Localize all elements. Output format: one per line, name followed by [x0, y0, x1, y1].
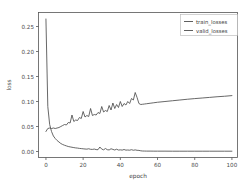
y-tick-label: 0.00 — [22, 149, 35, 155]
data-series-group — [46, 19, 232, 151]
y-tick-label: 0.05 — [22, 124, 35, 130]
legend[interactable]: train_losses valid_losses — [181, 15, 238, 36]
y-tick-label: 0.25 — [22, 24, 35, 30]
y-tick-label: 0.15 — [22, 74, 35, 80]
x-axis-ticks: 020406080100 — [44, 158, 238, 168]
legend-label-valid-losses: valid_losses — [196, 28, 228, 35]
figure-canvas: 020406080100 0.000.050.100.150.200.25 ep… — [0, 0, 250, 193]
loss-curve-chart: 020406080100 0.000.050.100.150.200.25 ep… — [0, 0, 250, 193]
x-tick-label: 0 — [44, 162, 48, 168]
x-tick-label: 40 — [117, 162, 125, 168]
series-line-valid-losses — [46, 93, 232, 132]
x-tick-label: 100 — [227, 162, 238, 168]
legend-label-train-losses: train_losses — [196, 19, 227, 26]
x-tick-label: 60 — [154, 162, 162, 168]
x-axis-label: epoch — [129, 173, 147, 180]
x-tick-label: 20 — [80, 162, 88, 168]
y-axis-label: loss — [6, 79, 12, 90]
series-line-train-losses — [46, 19, 232, 151]
x-tick-label: 80 — [191, 162, 199, 168]
y-tick-label: 0.20 — [22, 49, 35, 55]
y-tick-label: 0.10 — [22, 99, 35, 105]
y-axis-ticks: 0.000.050.100.150.200.25 — [22, 24, 39, 155]
